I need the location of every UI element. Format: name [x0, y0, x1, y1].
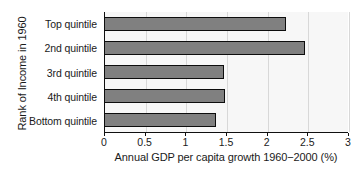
y-tick-label: Top quintile: [18, 12, 101, 36]
plot-area: [104, 12, 348, 133]
bar-row: [105, 36, 348, 60]
x-axis-title: Annual GDP per capita growth 1960−2000 (…: [104, 151, 348, 163]
bar-chart: Rank of Income in 1960 Top quintile 2nd …: [0, 0, 363, 174]
x-tick-label: 2.5: [300, 136, 315, 148]
x-tick-label: 1.5: [219, 136, 234, 148]
bar: [104, 89, 225, 104]
x-tick-label: 0.5: [137, 136, 152, 148]
x-tick-label: 3: [345, 136, 351, 148]
x-tick-label: 1: [182, 136, 188, 148]
y-axis-tick-labels: Top quintile 2nd quintile 3rd quintile 4…: [18, 12, 101, 133]
y-tick-label: 3rd quintile: [18, 60, 101, 84]
bar-series: [105, 12, 348, 132]
x-axis-tick-labels: 00.511.522.53: [104, 133, 348, 149]
y-tick-label: 4th quintile: [18, 85, 101, 109]
x-tick-label: 2: [264, 136, 270, 148]
bar: [104, 17, 287, 32]
gridline: [349, 12, 350, 132]
x-tick-label: 0: [101, 136, 107, 148]
bar-row: [105, 12, 348, 36]
bar: [104, 41, 306, 56]
bar-row: [105, 60, 348, 84]
bar: [104, 113, 217, 128]
bar-row: [105, 108, 348, 132]
y-tick-label: 2nd quintile: [18, 36, 101, 60]
bar-row: [105, 84, 348, 108]
y-tick-label: Bottom quintile: [18, 109, 101, 133]
bar: [104, 65, 224, 80]
